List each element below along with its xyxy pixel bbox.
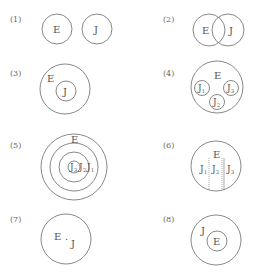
panel-label: (4) (163, 69, 174, 78)
label-e: E (213, 149, 220, 160)
panel-5: (5) E J 3 J 2 J 1 (10, 134, 107, 200)
sub-2: 2 (83, 167, 86, 173)
panel-label: (3) (10, 69, 21, 78)
circle-j (212, 14, 244, 46)
sub-1: 1 (202, 88, 205, 94)
panel-label: (5) (10, 141, 21, 150)
panel-3: (3) E J (10, 64, 90, 114)
panel-label: (2) (163, 15, 174, 24)
panel-1: (1) E J (10, 14, 112, 44)
panel-7: (7) E . J (10, 214, 91, 264)
sub-3: 3 (74, 167, 77, 173)
label-e: E (71, 134, 78, 145)
label-e: E (213, 236, 220, 247)
sub-2: 2 (216, 169, 219, 175)
label-j: J (93, 24, 98, 35)
panel-label: (7) (10, 215, 21, 224)
sub-1: 1 (91, 167, 94, 173)
panel-8: (8) J E (163, 215, 241, 265)
venn-diagram-grid: (1) E J (2) E J (3) E J (4) E J 1 J 3 J … (0, 0, 260, 276)
label-j: J (62, 86, 67, 97)
label-e: E (54, 231, 61, 242)
label-e: E (202, 25, 209, 36)
label-e: E (47, 73, 54, 84)
panel-6: (6) E J 1 J 2 J 3 (163, 141, 241, 191)
label-e: E (214, 70, 221, 81)
label-j: J (70, 238, 75, 249)
sub-3: 3 (231, 88, 234, 94)
label-e: E (53, 24, 60, 35)
panel-4: (4) E J 1 J 3 J 2 (163, 61, 243, 113)
sub-2: 2 (217, 102, 220, 108)
sub-1: 1 (204, 169, 207, 175)
label-j: J (200, 225, 205, 236)
panel-label: (8) (163, 215, 174, 224)
panel-2: (2) E J (163, 14, 244, 46)
label-j: J (228, 25, 233, 36)
panel-label: (6) (163, 141, 174, 150)
panel-label: (1) (10, 15, 21, 24)
point: . (65, 231, 68, 242)
sub-3: 3 (231, 169, 234, 175)
